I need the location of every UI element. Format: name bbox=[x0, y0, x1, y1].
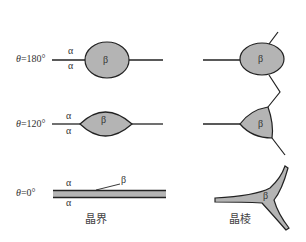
alpha-bottom-label: α bbox=[66, 126, 71, 136]
theta-value: =0° bbox=[21, 187, 36, 198]
caption-grain-boundary: 晶界 bbox=[85, 215, 107, 225]
alpha-top-label: α bbox=[68, 46, 73, 56]
beta-label: β bbox=[103, 55, 108, 65]
beta-label-edge: β bbox=[258, 54, 263, 64]
alpha-bottom-label: α bbox=[66, 198, 71, 208]
caption-grain-edge: 晶棱 bbox=[229, 215, 251, 225]
edge-line-top bbox=[269, 32, 278, 44]
beta-leader-line bbox=[96, 184, 120, 190]
beta-triangle bbox=[240, 107, 273, 138]
beta-tricusp bbox=[215, 166, 289, 230]
alpha-top-label: α bbox=[66, 178, 71, 188]
row-180-edge bbox=[203, 32, 284, 107]
row-0-edge bbox=[215, 166, 289, 230]
theta-label-120: θ=120° bbox=[16, 119, 46, 129]
beta-label-edge: β bbox=[258, 119, 263, 129]
alpha-top-label: α bbox=[66, 111, 71, 121]
beta-label-edge: β bbox=[263, 191, 268, 201]
theta-label-0: θ=0° bbox=[16, 188, 36, 198]
beta-label: β bbox=[101, 115, 106, 125]
edge-line-connector bbox=[268, 75, 280, 107]
theta-label-180: θ=180° bbox=[16, 54, 46, 64]
alpha-bottom-label: α bbox=[68, 61, 73, 71]
theta-value: =180° bbox=[21, 53, 46, 64]
edge-line-down bbox=[272, 138, 285, 155]
beta-label: β bbox=[121, 175, 126, 185]
row-120-edge bbox=[203, 107, 285, 155]
theta-value: =120° bbox=[21, 118, 46, 129]
